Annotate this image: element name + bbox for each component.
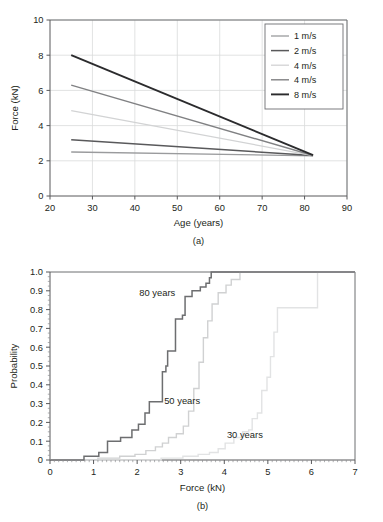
x-axis-title: Age (years) bbox=[174, 217, 224, 228]
panel-b-annotations: 80 years50 years30 years bbox=[139, 287, 263, 441]
y-tick-label: 8 bbox=[38, 51, 43, 61]
x-tick-label: 80 bbox=[299, 203, 309, 213]
x-tick-label: 50 bbox=[172, 203, 182, 213]
x-tick-label: 40 bbox=[130, 203, 140, 213]
x-tick-label: 0 bbox=[47, 467, 52, 477]
y-tick-label: 0.4 bbox=[30, 380, 43, 390]
y-tick-label: 0.3 bbox=[30, 399, 43, 409]
x-tick-label: 2 bbox=[135, 467, 140, 477]
x-tick-label: 60 bbox=[215, 203, 225, 213]
x-tick-label: 3 bbox=[178, 467, 183, 477]
y-tick-label: 0.2 bbox=[30, 418, 43, 428]
y-tick-label: 0.9 bbox=[30, 286, 43, 296]
legend-label-4: 8 m/s bbox=[294, 90, 317, 100]
panel-a-force-vs-age: 20304050607080900246810Age (years)Force … bbox=[0, 0, 383, 258]
x-tick-label: 1 bbox=[91, 467, 96, 477]
y-tick-label: 0 bbox=[38, 455, 43, 465]
x-tick-label: 30 bbox=[87, 203, 97, 213]
x-tick-label: 70 bbox=[257, 203, 267, 213]
panel-b-plot: 0123456700.10.20.30.40.50.60.70.80.91.08… bbox=[0, 258, 383, 522]
step-curve-30-years bbox=[50, 272, 355, 460]
panel-b-probability-vs-force: 0123456700.10.20.30.40.50.60.70.80.91.08… bbox=[0, 258, 383, 522]
curve-annotation-1: 50 years bbox=[164, 395, 200, 406]
panel-b-ticks: 0123456700.10.20.30.40.50.60.70.80.91.0 bbox=[30, 267, 358, 477]
legend-label-0: 1 m/s bbox=[294, 31, 317, 41]
x-axis-title: Force (kN) bbox=[180, 482, 225, 493]
x-tick-label: 4 bbox=[222, 467, 227, 477]
series-line-2 bbox=[71, 111, 313, 156]
panel-b-caption: (b) bbox=[197, 501, 208, 511]
panel-b-frame bbox=[50, 272, 355, 460]
y-tick-label: 0.7 bbox=[30, 324, 43, 334]
x-tick-label: 90 bbox=[342, 203, 352, 213]
y-tick-label: 2 bbox=[38, 156, 43, 166]
y-axis-title: Probability bbox=[8, 343, 19, 388]
step-curve-50-years bbox=[50, 272, 355, 460]
step-curve-80-years bbox=[50, 272, 355, 460]
panel-b-series-group bbox=[50, 272, 355, 460]
legend-label-1: 2 m/s bbox=[294, 46, 317, 56]
scientific-figure: 20304050607080900246810Age (years)Force … bbox=[0, 0, 383, 522]
x-tick-label: 7 bbox=[352, 467, 357, 477]
legend-label-3: 4 m/s bbox=[294, 75, 317, 85]
legend-label-2: 4 m/s bbox=[294, 61, 317, 71]
y-tick-label: 1.0 bbox=[30, 267, 43, 277]
y-axis-title: Force (kN) bbox=[9, 85, 20, 130]
y-tick-label: 6 bbox=[38, 86, 43, 96]
x-tick-label: 20 bbox=[45, 203, 55, 213]
curve-annotation-2: 30 years bbox=[227, 429, 263, 440]
curve-annotation-0: 80 years bbox=[139, 287, 175, 298]
panel-a-plot: 20304050607080900246810Age (years)Force … bbox=[0, 0, 383, 258]
x-tick-label: 6 bbox=[309, 467, 314, 477]
y-tick-label: 0.5 bbox=[30, 361, 43, 371]
y-tick-label: 4 bbox=[38, 121, 43, 131]
panel-a-caption: (a) bbox=[193, 236, 204, 246]
y-tick-label: 0.1 bbox=[30, 437, 43, 447]
y-tick-label: 0.6 bbox=[30, 343, 43, 353]
y-tick-label: 10 bbox=[33, 15, 43, 25]
x-tick-label: 5 bbox=[265, 467, 270, 477]
panel-a-legend: 1 m/s2 m/s4 m/s4 m/s8 m/s bbox=[265, 24, 343, 109]
y-tick-label: 0 bbox=[38, 191, 43, 201]
y-tick-label: 0.8 bbox=[30, 305, 43, 315]
